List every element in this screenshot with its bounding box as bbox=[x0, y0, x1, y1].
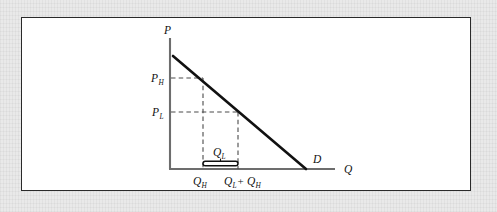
total-quantity-label: Q L + Q H bbox=[224, 175, 262, 190]
price-low-label: P L bbox=[151, 106, 164, 121]
price-axis-label: P bbox=[163, 24, 171, 36]
quantity-high-label: Q H bbox=[193, 175, 208, 190]
price-high-base: P bbox=[150, 72, 158, 84]
demand-diagram: P Q D P H P L Q L Q H Q L + Q bbox=[21, 17, 471, 191]
figure-page: P Q D P H P L Q L Q H Q L + Q bbox=[0, 0, 497, 212]
price-low-subscript: L bbox=[159, 112, 164, 121]
quantity-high-subscript: H bbox=[201, 181, 208, 190]
total-quantity-second-subscript: H bbox=[255, 181, 262, 190]
demand-curve-line bbox=[173, 56, 306, 169]
quantity-span-bracket bbox=[203, 159, 238, 166]
price-high-label: P H bbox=[150, 72, 165, 87]
bracket-quantity-label: Q L bbox=[213, 146, 226, 161]
total-quantity-first-subscript: L bbox=[232, 181, 237, 190]
price-low-base: P bbox=[151, 106, 159, 118]
demand-curve-label: D bbox=[312, 153, 322, 165]
quantity-axis-label: Q bbox=[344, 163, 353, 175]
price-high-subscript: H bbox=[158, 78, 165, 87]
bracket-quantity-subscript: L bbox=[221, 152, 226, 161]
total-quantity-operator: + bbox=[238, 175, 244, 187]
